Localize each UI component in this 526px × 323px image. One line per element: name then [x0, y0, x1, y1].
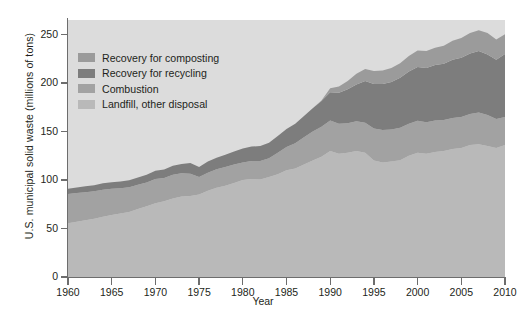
y-tick-label-wrap: 200: [14, 77, 58, 88]
y-tick-label-wrap: 0: [14, 271, 58, 282]
x-tick-mark: [67, 278, 68, 285]
y-tick-label: 0: [18, 271, 58, 281]
legend-swatch-icon: [78, 100, 95, 109]
chart-legend: Recovery for compostingRecovery for recy…: [78, 50, 219, 112]
y-tick-mark: [61, 228, 68, 229]
legend-item-3: Landfill, other disposal: [78, 97, 219, 113]
y-tick-label-wrap: 100: [14, 174, 58, 185]
y-tick-label: 250: [18, 29, 58, 39]
x-tick-mark: [330, 278, 331, 285]
y-tick-label: 200: [18, 77, 58, 87]
legend-item-1: Recovery for recycling: [78, 66, 219, 82]
legend-item-2: Combustion: [78, 81, 219, 97]
x-tick-mark: [111, 278, 112, 285]
legend-label: Recovery for recycling: [102, 67, 207, 79]
x-tick-mark: [198, 278, 199, 285]
y-tick-label-wrap: 250: [14, 29, 58, 40]
legend-label: Recovery for composting: [102, 52, 219, 64]
y-tick-mark: [61, 82, 68, 83]
y-tick-label-wrap: 150: [14, 126, 58, 137]
legend-label: Combustion: [102, 83, 159, 95]
legend-swatch-icon: [78, 69, 95, 78]
chart-container: U.S. municipal solid waste (millions of …: [0, 0, 526, 323]
y-tick-mark: [61, 131, 68, 132]
y-tick-label: 150: [18, 126, 58, 136]
legend-item-0: Recovery for composting: [78, 50, 219, 66]
x-tick-mark: [504, 278, 505, 285]
x-tick-mark: [286, 278, 287, 285]
legend-label: Landfill, other disposal: [102, 98, 207, 110]
y-axis-line: [67, 18, 68, 279]
x-tick-mark: [155, 278, 156, 285]
x-tick-mark: [461, 278, 462, 285]
y-tick-mark: [61, 179, 68, 180]
x-tick-mark: [417, 278, 418, 285]
y-tick-label: 100: [18, 174, 58, 184]
legend-swatch-icon: [78, 53, 95, 62]
y-tick-label: 50: [18, 223, 58, 233]
y-tick-mark: [61, 34, 68, 35]
legend-swatch-icon: [78, 84, 95, 93]
x-tick-mark: [242, 278, 243, 285]
x-axis-title: Year: [0, 295, 526, 307]
x-tick-mark: [373, 278, 374, 285]
y-tick-label-wrap: 50: [14, 223, 58, 234]
